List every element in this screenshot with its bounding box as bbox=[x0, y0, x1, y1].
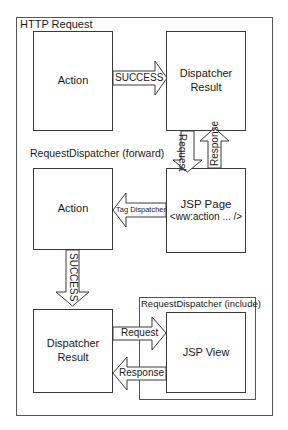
success-down-label: SUCCESS bbox=[68, 253, 79, 301]
arrows-layer bbox=[0, 0, 288, 430]
success-top-label: SUCCESS bbox=[115, 72, 163, 83]
tag-dispatcher-label: Tag Dispatcher bbox=[116, 205, 166, 214]
response-left-label: Response bbox=[119, 367, 164, 378]
request-down-label: Request bbox=[177, 134, 188, 171]
request-right-label: Request bbox=[121, 327, 158, 338]
response-up-label: Response bbox=[209, 121, 220, 166]
